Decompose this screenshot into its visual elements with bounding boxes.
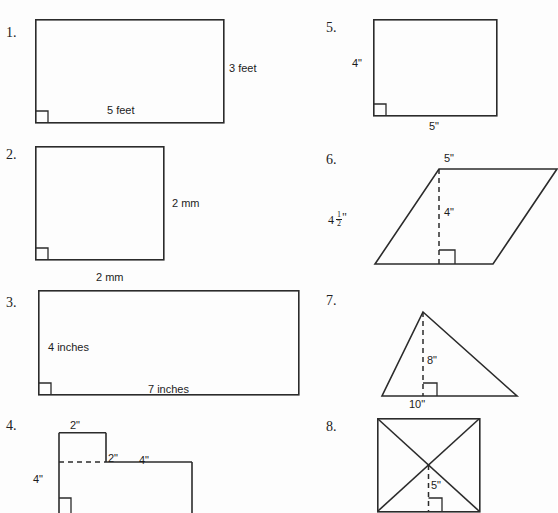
problem-number-4: 4. [6, 419, 17, 433]
label-right-1: 3 feet [229, 63, 257, 74]
label-top-6: 5" [444, 153, 454, 164]
label-middle-right-4: 2" [108, 453, 118, 464]
parallelogram-shape-6 [374, 168, 558, 270]
label-left-5: 4" [352, 58, 362, 69]
problem-number-6: 6. [326, 153, 337, 167]
mixed-unit-6: " [342, 211, 347, 223]
label-bottom-5: 5" [429, 121, 439, 132]
label-slant-side-6: 4 1 2 " [328, 211, 347, 228]
problem-number-7: 7. [326, 294, 337, 308]
problem-number-2: 2. [6, 148, 17, 162]
compound-shape-4 [58, 432, 203, 513]
label-left-4: 4" [33, 474, 43, 485]
triangle-shape-7 [381, 311, 518, 397]
label-upper-right-4: 4" [139, 455, 149, 466]
label-bottom-1: 5 feet [107, 105, 135, 116]
problem-number-5: 5. [326, 21, 337, 35]
square-shape-2 [35, 146, 165, 261]
label-height-7: 8" [427, 355, 437, 366]
square-diagonals-shape-8 [377, 418, 481, 513]
mixed-whole-6: 4 [328, 214, 334, 226]
problem-number-1: 1. [6, 26, 17, 40]
problem-number-8: 8. [326, 420, 337, 434]
label-top-4: 2" [70, 420, 80, 431]
problem-number-3: 3. [6, 296, 17, 310]
label-base-7: 10" [409, 399, 425, 410]
label-left-inside-3: 4 inches [48, 342, 89, 353]
label-right-2: 2 mm [172, 198, 200, 209]
label-bottom-2: 2 mm [96, 272, 124, 283]
label-height-8: 5" [431, 480, 441, 491]
rectangle-shape-5 [373, 19, 498, 117]
label-bottom-inside-3: 7 inches [148, 384, 189, 395]
label-height-6: 4" [444, 207, 454, 218]
